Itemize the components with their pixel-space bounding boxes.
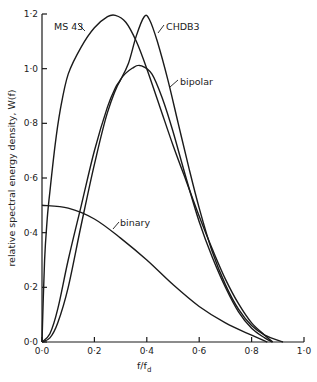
- y-tick-label: 0·6: [24, 173, 39, 183]
- x-tick-label: 0·8: [244, 346, 259, 356]
- x-tick-label: 0·0: [35, 346, 50, 356]
- y-axis-title: relative spectral energy density, W(f): [6, 89, 17, 266]
- curve-ms43: [42, 15, 273, 342]
- y-tick-label: 0·2: [24, 282, 38, 292]
- x-tick-label: 0·4: [140, 346, 155, 356]
- curves: [42, 15, 283, 342]
- label-ms43: MS 43: [54, 21, 83, 32]
- x-tick-label: 1·0: [297, 346, 312, 356]
- label-leader-line: [170, 80, 178, 87]
- axes: 0·00·20·40·60·81·01·20·00·20·40·60·81·0: [24, 9, 312, 356]
- curve-chdb3: [42, 15, 283, 342]
- label-bipolar: bipolar: [180, 76, 213, 87]
- label-leader-line: [113, 222, 119, 229]
- label-leader-line: [158, 25, 164, 33]
- spectral-density-chart: 0·00·20·40·60·81·01·20·00·20·40·60·81·0 …: [0, 0, 317, 382]
- x-axis-title-sub: d: [147, 366, 151, 374]
- y-tick-label: 1·0: [24, 64, 39, 74]
- label-binary: binary: [120, 217, 150, 228]
- x-tick-label: 0·2: [87, 346, 101, 356]
- y-tick-label: 0·8: [24, 118, 39, 128]
- y-tick-label: 1·2: [24, 9, 38, 19]
- x-tick-label: 0·6: [192, 346, 207, 356]
- y-tick-label: 0·4: [24, 228, 39, 238]
- label-chdb3: CHDB3: [166, 21, 200, 32]
- curve-bipolar: [42, 65, 273, 342]
- x-axis-title: f/fd: [137, 360, 151, 374]
